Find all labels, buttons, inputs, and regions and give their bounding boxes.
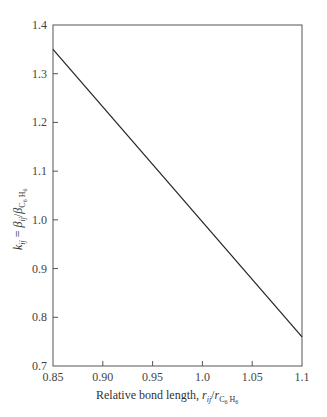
x-tick-label: 1.1 [295, 370, 310, 384]
y-axis: 0.70.80.91.01.11.21.31.4 [32, 18, 58, 373]
plot-frame [53, 25, 302, 366]
data-line [53, 49, 302, 336]
y-tick-label: 1.2 [32, 115, 47, 129]
y-tick-label: 1.0 [32, 213, 47, 227]
y-tick-label: 1.4 [32, 18, 47, 32]
y-tick-label: 1.3 [32, 67, 47, 81]
y-axis-label: kij = βij/βC6 H6 [11, 189, 28, 250]
y-tick-label: 0.9 [32, 262, 47, 276]
x-tick-label: 1.0 [195, 370, 210, 384]
x-axis: 0.850.900.951.01.051.1 [43, 361, 310, 384]
y-tick-label: 0.8 [32, 310, 47, 324]
x-tick-label: 0.95 [142, 370, 163, 384]
chart: 0.70.80.91.01.11.21.31.4 0.850.900.951.0… [0, 0, 327, 417]
x-tick-label: 1.05 [242, 370, 263, 384]
x-tick-label: 0.85 [43, 370, 64, 384]
x-axis-label: Relative bond length, rij/rC6 H6 [96, 388, 238, 405]
y-tick-label: 1.1 [32, 164, 47, 178]
x-tick-label: 0.90 [92, 370, 113, 384]
